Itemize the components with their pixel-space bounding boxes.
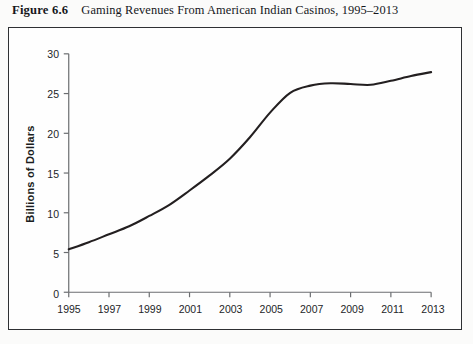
x-tick-label: 1997: [98, 303, 121, 315]
x-tick-label: 2009: [340, 303, 363, 315]
x-tick-label: 2001: [179, 303, 202, 315]
y-axis-title: Billions of Dollars: [23, 125, 35, 222]
x-tick-label: 1995: [57, 303, 80, 315]
x-tick-label: 2013: [421, 303, 444, 315]
x-tick-label: 2005: [260, 303, 283, 315]
figure-title: Gaming Revenues From American Indian Cas…: [81, 3, 398, 17]
figure-number: Figure 6.6: [12, 3, 68, 17]
figure-page: Figure 6.6Gaming Revenues From American …: [0, 0, 473, 344]
x-tick-label: 2003: [219, 303, 242, 315]
x-axis-tick-labels: 1995199719992001200320052007200920112013: [9, 28, 461, 329]
figure-caption: Figure 6.6Gaming Revenues From American …: [12, 3, 462, 23]
x-tick-label: 2011: [381, 303, 404, 315]
chart-frame: 051015202530 199519971999200120032005200…: [8, 27, 462, 330]
x-tick-label: 2007: [300, 303, 323, 315]
x-tick-label: 1999: [138, 303, 161, 315]
